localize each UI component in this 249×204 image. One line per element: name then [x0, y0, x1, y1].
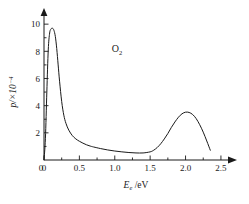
- x-tick-label: 1.5: [145, 163, 157, 173]
- data-series-curve: [44, 28, 210, 160]
- annotation-main: O: [112, 43, 119, 54]
- y-axis-tick-labels: 246810: [31, 19, 41, 138]
- x-tick-label: 2.0: [180, 163, 192, 173]
- y-axis-title-exponent: −4: [7, 76, 14, 84]
- y-tick-label: 8: [36, 47, 41, 57]
- y-axis-arrow-icon: [41, 8, 48, 16]
- y-tick-label: 2: [36, 128, 41, 138]
- chart-figure: 00.51.01.52.02.50 246810 Ee /eV p/×10−4 …: [0, 0, 249, 204]
- x-axis-arrow-icon: [228, 157, 237, 164]
- y-tick-label: 4: [36, 101, 41, 111]
- series-annotation-o2: O2: [112, 43, 122, 56]
- x-tick-label: 1.0: [109, 163, 121, 173]
- axes-group: [41, 8, 237, 163]
- x-axis-title-tail: /eV: [132, 180, 148, 190]
- y-tick-label: 6: [36, 74, 41, 84]
- annotation-subscript: 2: [119, 49, 122, 56]
- y-axis-title: p/×10−4: [7, 76, 19, 109]
- chart-plot-area: 00.51.01.52.02.50 246810 Ee /eV p/×10−4 …: [0, 0, 249, 204]
- x-tick-label: 0.5: [74, 163, 86, 173]
- x-tick-label: 2.5: [215, 163, 227, 173]
- x-axis-title: Ee /eV: [123, 180, 149, 191]
- y-axis-title-main: p/×10: [8, 84, 18, 109]
- x-axis-tick-labels: 00.51.01.52.02.50: [39, 163, 227, 173]
- origin-label: 0: [39, 163, 44, 173]
- y-tick-label: 10: [31, 19, 41, 29]
